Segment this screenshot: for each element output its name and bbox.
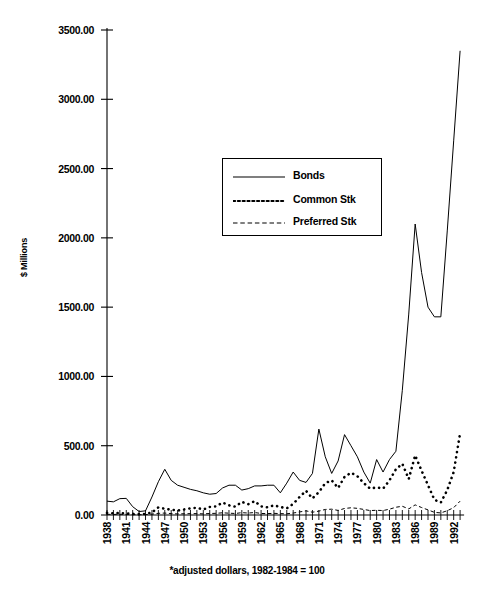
x-axis-tick-label: 1983 <box>391 522 402 544</box>
legend-label-preferred-stk: Preferred Stk <box>293 215 356 227</box>
x-axis-tick-label: 1977 <box>352 522 363 544</box>
x-axis-tick-label: 1956 <box>218 522 229 544</box>
chart-legend: Bonds Common Stk Preferred Stk <box>222 158 382 236</box>
x-axis-tick-label: 1980 <box>372 522 383 544</box>
x-axis-tick-label: 1974 <box>333 522 344 544</box>
y-axis-tick-label: 3000.00 <box>22 94 94 104</box>
y-axis-tick-label: 2000.00 <box>22 233 94 243</box>
legend-label-bonds: Bonds <box>293 169 325 181</box>
y-axis-tick-label: 2500.00 <box>22 164 94 174</box>
chart-footnote: *adjusted dollars, 1982-1984 = 100 <box>0 565 494 576</box>
x-axis-tick-label: 1950 <box>179 522 190 544</box>
x-axis-tick-label: 1971 <box>314 522 325 544</box>
legend-item-bonds: Bonds <box>223 167 383 187</box>
x-axis-tick-label: 1944 <box>141 522 152 544</box>
y-axis-tick-label: 0.00 <box>22 510 94 520</box>
x-axis-tick-label: 1992 <box>449 522 460 544</box>
x-axis-tick-label: 1947 <box>160 522 171 544</box>
legend-swatch-preferred-stk <box>233 222 285 224</box>
legend-label-common-stk: Common Stk <box>293 193 356 205</box>
x-axis-tick-label: 1965 <box>275 522 286 544</box>
x-axis-tick-label: 1959 <box>237 522 248 544</box>
series-line-bonds <box>107 51 460 512</box>
x-axis-tick-label: 1941 <box>121 522 132 544</box>
series-line-preferred-stk <box>107 501 460 515</box>
chart-figure: $ Millions 3500.003000.002500.002000.001… <box>0 0 494 599</box>
y-axis-title: $ Millions <box>18 238 32 277</box>
series-line-common-stk <box>107 433 460 514</box>
y-axis-tick-label: 500.00 <box>22 441 94 451</box>
x-axis-tick-label: 1962 <box>256 522 267 544</box>
y-axis-tick-label: 1000.00 <box>22 371 94 381</box>
legend-swatch-bonds <box>233 176 285 178</box>
x-axis-tick-label: 1989 <box>429 522 440 544</box>
legend-swatch-common-stk <box>233 200 285 202</box>
x-axis-tick-label: 1986 <box>410 522 421 544</box>
legend-item-common-stk: Common Stk <box>223 191 383 211</box>
x-axis-tick-label: 1938 <box>102 522 113 544</box>
y-axis-tick-label: 1500.00 <box>22 302 94 312</box>
x-axis-tick-label: 1968 <box>295 522 306 544</box>
legend-item-preferred-stk: Preferred Stk <box>223 213 383 233</box>
x-axis-tick-label: 1953 <box>198 522 209 544</box>
y-axis-tick-label: 3500.00 <box>22 25 94 35</box>
